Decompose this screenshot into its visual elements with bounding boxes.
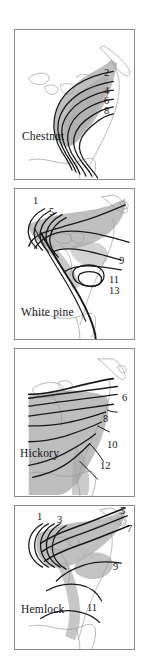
isochrone-label: 3 [57, 515, 62, 526]
isochrone-label: 10 [107, 440, 118, 451]
species-label-chestnut: Chestnut [22, 131, 65, 143]
isochrone-label: 5 [120, 506, 125, 517]
isochrone-label: 11 [87, 603, 97, 614]
map-panel-hemlock: Hemlock 1 3 5 7 9 11 [14, 505, 135, 650]
isochrone-label: 5 [49, 207, 54, 218]
hemlock-map-svg [15, 506, 134, 649]
isochrone-label: 7 [127, 524, 132, 535]
hemlock-range-shading [36, 510, 125, 638]
chestnut-map-svg [15, 30, 134, 179]
isochrone-label: 8 [104, 106, 109, 117]
isochrone-label: 9 [113, 562, 118, 573]
isochrone-label: 13 [109, 286, 120, 297]
isochrone-label: 11 [109, 275, 119, 286]
isochrone-label: 12 [100, 461, 111, 472]
isochrone-label: 9 [119, 256, 124, 267]
isochrone-label: 1 [33, 196, 38, 207]
map-panel-chestnut: Chestnut 2 4 6 8 [14, 29, 135, 180]
map-panel-hickory: Hickory 6 8 10 12 [14, 348, 135, 497]
species-label-hickory: Hickory [20, 448, 59, 460]
tree-migration-map-figure: Chestnut 2 4 6 8 [0, 0, 149, 661]
isochrone-label: 8 [103, 414, 108, 425]
species-label-hemlock: Hemlock [21, 604, 65, 616]
isochrone-label: 1 [37, 512, 42, 523]
isochrone-label: 6 [122, 393, 127, 404]
hickory-map-svg [15, 349, 134, 496]
isochrone-label: 2 [104, 68, 109, 79]
species-label-white-pine: White pine [21, 307, 74, 319]
map-panel-white-pine: White pine 1 5 9 11 13 [14, 188, 135, 340]
